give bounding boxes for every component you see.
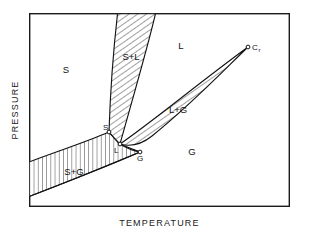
- triple-point-liquid-marker: [118, 142, 122, 146]
- critical-point-letter: C: [252, 43, 258, 52]
- critical-point-marker: [246, 45, 250, 49]
- x-axis-label: TEMPERATURE: [119, 218, 200, 228]
- y-axis-label: PRESSURE: [10, 80, 20, 139]
- point-label-triple-liquid: L: [114, 146, 119, 155]
- region-label-gas: G: [188, 146, 195, 157]
- region-label-solid-gas: S+G: [64, 166, 83, 177]
- critical-point-subscript: r: [259, 47, 261, 53]
- region-label-liquid: L: [178, 40, 183, 51]
- point-label-triple-gas: G: [137, 154, 143, 163]
- point-label-triple-solid: S: [103, 123, 108, 132]
- region-label-solid: S: [63, 64, 69, 75]
- region-label-liquid-gas: L+G: [169, 104, 187, 115]
- region-label-solid-liquid: S+L: [122, 51, 139, 62]
- phase-diagram-figure: S L G S+L L+G S+G S L G C r TEMPERATURE …: [0, 0, 310, 238]
